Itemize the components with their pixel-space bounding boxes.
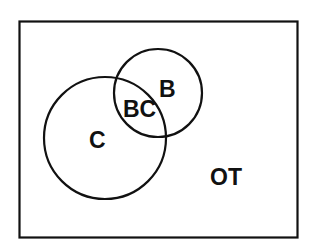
intersection-bc-label: BC (123, 96, 156, 122)
set-b-label: B (159, 76, 176, 102)
set-c-label: C (89, 127, 106, 153)
venn-diagram: C BC B OT (0, 0, 314, 249)
universe-ot-label: OT (210, 164, 242, 190)
universe-rectangle (20, 22, 298, 238)
